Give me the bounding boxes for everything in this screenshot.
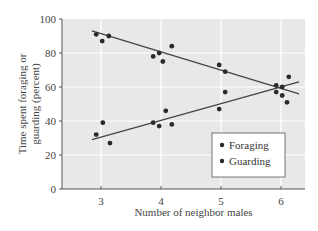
y-tick-label: 80 xyxy=(45,47,57,59)
y-tick-label: 20 xyxy=(45,149,57,161)
data-point-foraging xyxy=(223,69,228,74)
data-point-guarding xyxy=(108,141,113,146)
data-point-foraging xyxy=(217,63,222,68)
data-point-guarding xyxy=(169,122,174,127)
data-point-foraging xyxy=(106,34,111,39)
data-point-guarding xyxy=(151,120,156,125)
data-point-foraging xyxy=(157,51,162,56)
data-point-guarding xyxy=(217,107,222,112)
y-tick-label: 0 xyxy=(51,183,57,195)
scatter-chart: 020406080100 3456 Number of neighbor mal… xyxy=(0,0,318,231)
legend: ForagingGuarding xyxy=(212,133,285,177)
data-point-foraging xyxy=(280,85,285,90)
legend-label: Foraging xyxy=(229,139,269,151)
data-point-guarding xyxy=(286,74,291,79)
data-point-foraging xyxy=(100,39,105,44)
x-axis-title: Number of neighbor males xyxy=(134,206,252,218)
y-tick-label: 40 xyxy=(45,115,57,127)
data-point-foraging xyxy=(160,59,165,64)
data-point-foraging xyxy=(151,54,156,59)
y-axis-title: Time spent foraging orguarding (percent) xyxy=(16,53,42,154)
data-point-foraging xyxy=(285,100,290,105)
data-point-guarding xyxy=(100,120,105,125)
legend-label: Guarding xyxy=(229,155,271,167)
data-point-foraging xyxy=(94,32,99,37)
y-axis-title-line: guarding (percent) xyxy=(29,63,42,145)
data-point-guarding xyxy=(163,108,168,113)
data-point-foraging xyxy=(169,44,174,49)
x-tick-label: 6 xyxy=(278,195,284,207)
x-tick-label: 3 xyxy=(98,195,104,207)
data-point-guarding xyxy=(274,90,279,95)
y-axis-ticks: 020406080100 xyxy=(40,13,63,195)
legend-marker xyxy=(220,143,224,147)
data-point-guarding xyxy=(223,90,228,95)
data-point-guarding xyxy=(157,124,162,129)
y-tick-label: 100 xyxy=(40,13,57,25)
data-point-foraging xyxy=(274,83,279,88)
legend-marker xyxy=(220,159,224,163)
data-point-guarding xyxy=(94,132,99,137)
y-tick-label: 60 xyxy=(45,81,57,93)
data-point-guarding xyxy=(280,93,285,98)
y-axis-title-line: Time spent foraging or xyxy=(16,53,28,154)
